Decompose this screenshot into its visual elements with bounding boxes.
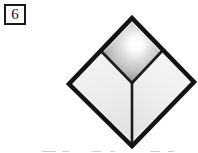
diamond-figure [0,0,198,153]
figure-page: 6 [0,0,198,153]
